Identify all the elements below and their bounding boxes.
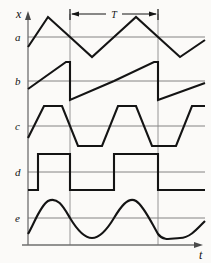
waveform-plot: T a b c d e x t (0, 0, 211, 263)
period-dimension: T (70, 9, 158, 21)
y-axis-label: x (15, 7, 22, 21)
waveform-figure: T a b c d e x t (0, 0, 211, 263)
trace-label-a: a (15, 31, 21, 43)
period-arrowhead-left-icon (71, 12, 79, 17)
trace-label-d: d (15, 166, 21, 178)
period-label: T (111, 9, 118, 20)
trace-label-c: c (15, 120, 20, 132)
y-axis-arrow-icon (25, 11, 31, 20)
trace-label-e: e (15, 212, 20, 224)
trace-labels: a b c d e (15, 31, 21, 224)
x-axis-label: t (199, 248, 203, 262)
trace-label-b: b (15, 75, 21, 87)
x-axis (22, 242, 203, 248)
trace-e (28, 200, 205, 239)
traces (28, 17, 205, 239)
period-arrowhead-right-icon (149, 12, 157, 17)
